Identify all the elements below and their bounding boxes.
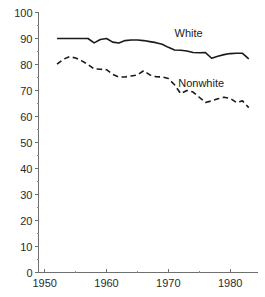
y-axis-tick-label: 40 bbox=[20, 163, 32, 175]
y-axis-tick-label: 20 bbox=[20, 215, 32, 227]
x-axis-tick-label: 1950 bbox=[32, 277, 56, 289]
series-label-white: White bbox=[175, 27, 203, 39]
y-axis-tick-label: 80 bbox=[20, 59, 32, 71]
series-label-nonwhite: Nonwhite bbox=[178, 77, 224, 89]
y-axis-tick-label: 100 bbox=[14, 7, 32, 19]
line-chart: 0102030405060708090100 1950196019701980 … bbox=[0, 0, 265, 297]
x-axis-tick-label: 1970 bbox=[156, 277, 180, 289]
y-axis-tick-label: 90 bbox=[20, 33, 32, 45]
x-axis-tick-label: 1980 bbox=[218, 277, 242, 289]
y-axis-tick-label: 50 bbox=[20, 137, 32, 149]
y-axis-tick-label: 30 bbox=[20, 189, 32, 201]
y-axis: 0102030405060708090100 bbox=[14, 7, 38, 279]
y-axis-tick-label: 70 bbox=[20, 85, 32, 97]
x-axis-tick-label: 1960 bbox=[94, 277, 118, 289]
y-axis-tick-label: 10 bbox=[20, 241, 32, 253]
data-line-white bbox=[57, 39, 249, 59]
chart-container: 0102030405060708090100 1950196019701980 … bbox=[0, 0, 265, 297]
data-series-group bbox=[57, 39, 249, 108]
series-label-group: WhiteNonwhite bbox=[175, 27, 225, 88]
x-axis: 1950196019701980 bbox=[32, 269, 258, 289]
y-axis-tick-label: 60 bbox=[20, 111, 32, 123]
